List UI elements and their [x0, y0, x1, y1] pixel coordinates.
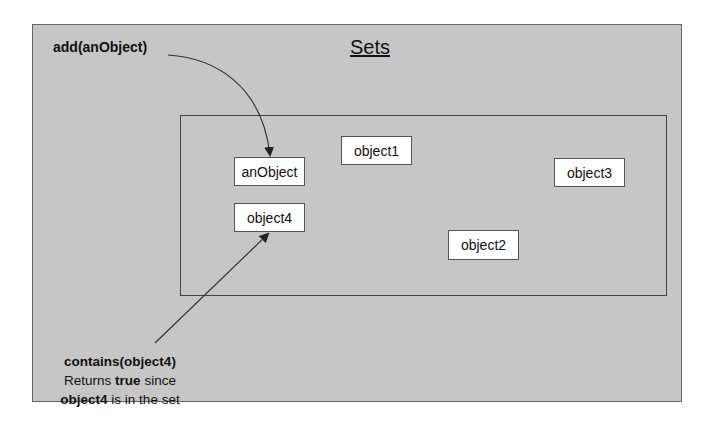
- arrows-layer: [0, 0, 718, 446]
- contains-arrow-icon: [155, 234, 268, 343]
- add-arrow-icon: [168, 55, 270, 155]
